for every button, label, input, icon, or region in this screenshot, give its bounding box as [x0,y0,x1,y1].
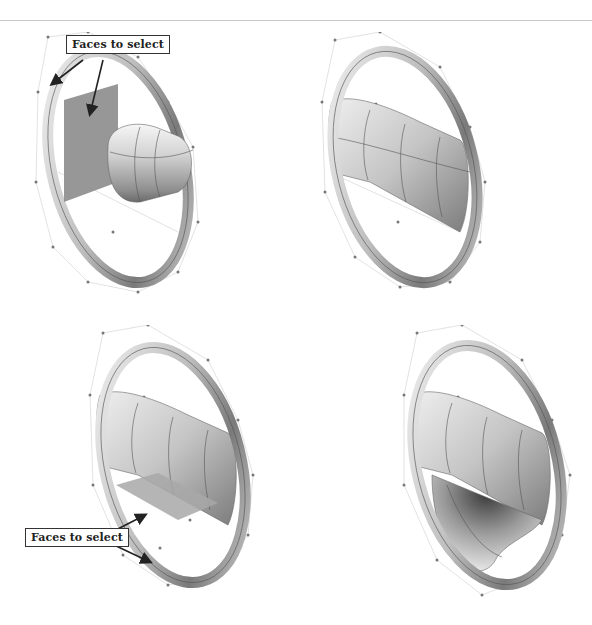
figure-top-left: Faces to select [28,32,228,302]
callout-faces-to-select-top: Faces to select [66,35,170,54]
callout-faces-to-select-bottom: Faces to select [25,528,129,547]
header-rule [0,20,592,21]
figure-bottom-left [78,325,278,595]
figure-bottom-right [392,325,592,605]
figure-top-right [310,32,510,302]
